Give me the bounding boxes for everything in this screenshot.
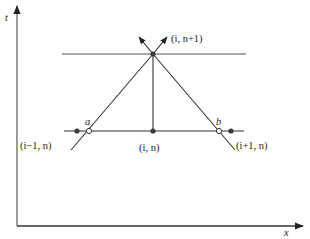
right-up-arrow xyxy=(153,37,167,54)
label-left-point: (i−1, n) xyxy=(20,141,52,152)
label-foot-b: b xyxy=(216,117,221,128)
right-characteristic-line xyxy=(153,54,235,150)
point-center xyxy=(150,128,155,133)
x-axis-label: x xyxy=(284,228,289,239)
t-axis-label: t xyxy=(5,13,8,24)
point-left xyxy=(74,128,79,133)
label-top-point: (i, n+1) xyxy=(171,34,203,45)
foot-point-a xyxy=(86,128,91,133)
point-top xyxy=(150,51,155,56)
label-center-point: (i, n) xyxy=(139,143,159,154)
diagram-svg xyxy=(0,0,310,239)
left-characteristic-line xyxy=(71,54,153,150)
characteristics-diagram: t x (i, n+1) (i, n) (i−1, n) (i+1, n) a … xyxy=(0,0,310,239)
left-up-arrow xyxy=(139,37,153,54)
label-foot-a: a xyxy=(85,117,90,128)
point-right xyxy=(228,128,233,133)
foot-point-b xyxy=(216,128,221,133)
label-right-point: (i+1, n) xyxy=(236,141,268,152)
